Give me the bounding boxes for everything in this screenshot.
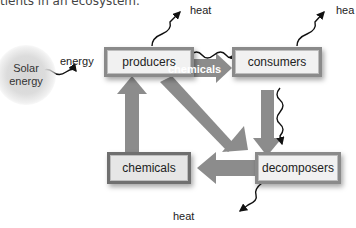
solar-energy-label: Solar energy — [4, 62, 48, 88]
energy-label: energy — [60, 55, 94, 67]
ecosystem-diagram: tients in an ecosystem. — [0, 0, 356, 228]
consumers-box: consumers — [232, 47, 322, 77]
chemicals-box: chemicals — [107, 152, 191, 184]
heat-label-bottom: heat — [173, 210, 194, 222]
chemicals-arrow-label: chemicals — [168, 63, 221, 75]
heat-label-top-right: hea — [336, 4, 354, 16]
arrows-layer — [0, 0, 356, 228]
decomposers-box: decomposers — [255, 152, 341, 184]
heat-label-top-left: heat — [190, 4, 211, 16]
